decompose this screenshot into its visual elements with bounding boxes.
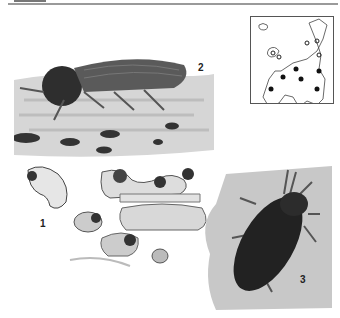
distribution-map bbox=[250, 16, 334, 104]
figure-3-beetle-dorsal bbox=[196, 164, 336, 314]
figure-label-2: 2 bbox=[198, 62, 204, 73]
header-rule bbox=[8, 3, 338, 5]
figure-label-3: 3 bbox=[300, 274, 306, 285]
header-tab-mark bbox=[14, 0, 46, 2]
figure-label-1: 1 bbox=[40, 218, 46, 229]
figure-2-beetle-side bbox=[14, 30, 214, 160]
figure-1-larvae bbox=[10, 160, 210, 270]
europe-map-icon bbox=[251, 17, 333, 103]
